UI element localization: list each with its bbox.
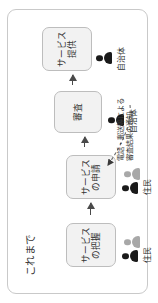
feedback-annotation: 電話・郵送等による 審査結果の通知	[116, 98, 135, 161]
feedback-annotation-line1: 電話・郵送等による	[116, 98, 125, 161]
process-box-label: 審査	[73, 103, 83, 121]
flow-arrow-1	[90, 203, 91, 215]
person-body	[130, 183, 139, 195]
person-icon-municipality	[96, 52, 112, 65]
person-body	[132, 237, 141, 249]
actor-label-residents-2: 住民	[141, 179, 152, 195]
person-head	[122, 253, 129, 260]
diagram-title: これまで	[22, 234, 37, 276]
feedback-annotation-line2: 審査結果の通知	[125, 98, 134, 161]
person-head	[124, 239, 131, 246]
person-icon-resident	[122, 250, 138, 263]
person-icon-resident	[122, 182, 138, 195]
actor-label-residents-1: 住民	[141, 247, 152, 263]
person-head	[122, 185, 129, 192]
diagram-frame: これまで サービスの把握 サービスの申請 審査 サービス提供 住民	[7, 9, 148, 294]
person-body	[130, 251, 139, 263]
process-box-label: サービスの把握	[81, 226, 101, 264]
process-box-service-awareness[interactable]: サービスの把握	[66, 223, 116, 267]
flow-arrow-2	[84, 137, 85, 147]
person-body	[104, 53, 113, 65]
person-icon-resident	[124, 236, 140, 249]
process-box-label: サービス提供	[57, 30, 77, 68]
flow-arrow-3	[72, 75, 73, 85]
person-head	[96, 55, 103, 62]
process-box-service-provision[interactable]: サービス提供	[42, 27, 92, 71]
actor-label-municipality-2: 自治体	[115, 47, 126, 71]
diagram-canvas: これまで サービスの把握 サービスの申請 審査 サービス提供 住民	[0, 0, 158, 303]
process-box-review[interactable]: 審査	[54, 91, 102, 133]
